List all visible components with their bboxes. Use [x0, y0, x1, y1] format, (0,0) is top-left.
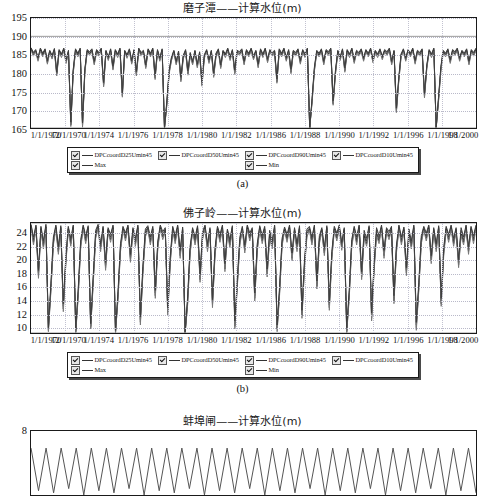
y-axis-tick-label: 24 — [17, 227, 28, 238]
legend-label: Min — [269, 366, 279, 374]
legend-item-dpcd25-b[interactable]: DPCcoordD25Umin45 — [71, 356, 158, 365]
x-axis-tick-label: 1/1/1996 — [393, 130, 424, 140]
legend-line-swatch — [256, 360, 267, 361]
x-axis-tick-label: 1/1/1982 — [221, 130, 252, 140]
legend-item-min-a[interactable]: Min — [245, 161, 419, 170]
y-axis-b: 2422201816141210 — [0, 222, 30, 334]
y-axis-tick-label: 12 — [17, 308, 28, 319]
x-axis-tick-label: 1/1/1986 — [255, 335, 286, 345]
checkbox-icon[interactable] — [245, 366, 254, 375]
figure-panel-a: 磨子潭——计算水位(m) 195190185180175170165 1/1/1… — [0, 2, 485, 192]
plot-area-b — [30, 222, 477, 334]
x-axis-tick-label: 1/1/1976 — [118, 335, 149, 345]
legend-line-swatch — [343, 360, 354, 361]
y-axis-tick-label: 8 — [22, 425, 27, 436]
legend-line-swatch — [82, 360, 93, 361]
chart-title-c: 蚌埠闸——计算水位(m) — [0, 415, 485, 430]
gridline-vertical — [236, 223, 237, 333]
x-axis-tick-label: 1/1/1974 — [83, 130, 114, 140]
checkbox-icon[interactable] — [245, 151, 254, 160]
legend-item-dpcd25-a[interactable]: DPCcoordD25Umin45 — [71, 151, 158, 160]
checkbox-icon[interactable] — [245, 356, 254, 365]
gridline-vertical — [65, 18, 66, 128]
legend-label: Max — [95, 161, 106, 169]
legend-item-dpcd50-a[interactable]: DPCcoordD50Umin45 — [158, 151, 245, 160]
gridline-horizontal — [31, 328, 476, 329]
gridline-vertical — [202, 18, 203, 128]
legend-item-dpcd10-b[interactable]: DPCcoordD10Umin45 — [332, 356, 419, 365]
y-axis-tick-label: 14 — [17, 295, 28, 306]
chart-title-b: 佛子岭——计算水位(m) — [0, 207, 485, 222]
legend-label: DPCcoordD10Umin45 — [356, 356, 413, 364]
gridline-vertical — [99, 18, 100, 128]
y-axis-tick-label: 185 — [11, 49, 27, 60]
x-axis-tick-label: 1/1/1988 — [290, 335, 321, 345]
checkbox-icon[interactable] — [71, 366, 80, 375]
legend-item-dpcd90-b[interactable]: DPCcoordD90Umin45 — [245, 356, 332, 365]
series-line-2 — [31, 50, 476, 128]
x-axis-tick-label: 1/1/1988 — [290, 130, 321, 140]
legend-item-dpcd10-a[interactable]: DPCcoordD10Umin45 — [332, 151, 419, 160]
gridline-horizontal — [31, 74, 476, 75]
legend-wrap-b: DPCcoordD25Umin45 DPCcoordD50Umin45 DPCc… — [0, 352, 485, 378]
y-axis-a: 195190185180175170165 — [0, 17, 30, 129]
legend-label: Min — [269, 161, 279, 169]
gridline-vertical — [65, 223, 66, 333]
checkbox-icon[interactable] — [158, 356, 167, 365]
gridline-vertical — [408, 18, 409, 128]
checkbox-icon[interactable] — [332, 356, 341, 365]
series-line-2 — [31, 228, 476, 333]
checkbox-icon[interactable] — [332, 151, 341, 160]
legend-item-max-a[interactable]: Max — [71, 161, 245, 170]
x-axis-tick-label: 12/1/1970 — [51, 335, 86, 345]
gridline-vertical — [373, 223, 374, 333]
x-axis-tick-label: 1/1/1990 — [324, 130, 355, 140]
gridline-vertical — [99, 223, 100, 333]
legend-label: DPCcoordD25Umin45 — [95, 151, 152, 159]
y-axis-tick-label: 175 — [11, 86, 27, 97]
checkbox-icon[interactable] — [158, 151, 167, 160]
legend-label: Max — [95, 366, 106, 374]
legend-item-max-b[interactable]: Max — [71, 366, 245, 375]
legend-item-dpcd50-b[interactable]: DPCcoordD50Umin45 — [158, 356, 245, 365]
legend-line-swatch — [256, 165, 267, 166]
gridline-vertical — [442, 18, 443, 128]
checkbox-icon[interactable] — [71, 151, 80, 160]
legend-box-b[interactable]: DPCcoordD25Umin45 DPCcoordD50Umin45 DPCc… — [67, 352, 419, 378]
gridline-vertical — [134, 18, 135, 128]
x-axis-tick-label: 1/1/2000 — [448, 130, 479, 140]
gridline-horizontal — [31, 315, 476, 316]
gridline-vertical — [168, 223, 169, 333]
legend-item-min-b[interactable]: Min — [245, 366, 419, 375]
legend-label: DPCcoordD90Umin45 — [269, 151, 326, 159]
gridline-vertical — [339, 18, 340, 128]
gridline-vertical — [168, 18, 169, 128]
x-axis-tick-label: 1/1/1992 — [359, 335, 390, 345]
y-axis-tick-label: 22 — [17, 240, 28, 251]
x-axis-tick-label: 1/1/1996 — [393, 335, 424, 345]
x-axis-tick-label: 1/1/2000 — [448, 335, 479, 345]
legend-item-dpcd90-a[interactable]: DPCcoordD90Umin45 — [245, 151, 332, 160]
gridline-horizontal — [31, 18, 476, 19]
legend-row-top-a: DPCcoordD25Umin45 DPCcoordD50Umin45 DPCc… — [71, 150, 415, 160]
y-axis-tick-label: 10 — [17, 322, 28, 333]
y-axis-tick-label: 195 — [11, 12, 27, 23]
gridline-horizontal — [31, 301, 476, 302]
gridline-horizontal — [31, 260, 476, 261]
checkbox-icon[interactable] — [71, 161, 80, 170]
checkbox-icon[interactable] — [71, 356, 80, 365]
legend-label: DPCcoordD10Umin45 — [356, 151, 413, 159]
legend-line-swatch — [82, 370, 93, 371]
figure-panel-b: 佛子岭——计算水位(m) 2422201816141210 1/1/197012… — [0, 207, 485, 397]
x-axis-tick-label: 1/1/1978 — [152, 130, 183, 140]
checkbox-icon[interactable] — [245, 161, 254, 170]
gridline-horizontal — [31, 287, 476, 288]
figure-panel-c: 蚌埠闸——计算水位(m) 8 — [0, 415, 485, 496]
x-axis-tick-label: 1/1/1980 — [187, 335, 218, 345]
legend-box-a[interactable]: DPCcoordD25Umin45 DPCcoordD50Umin45 DPCc… — [67, 147, 419, 173]
gridline-horizontal — [31, 55, 476, 56]
legend-line-swatch — [169, 155, 180, 156]
gridline-vertical — [202, 223, 203, 333]
legend-line-swatch — [256, 155, 267, 156]
y-axis-tick-label: 18 — [17, 267, 28, 278]
